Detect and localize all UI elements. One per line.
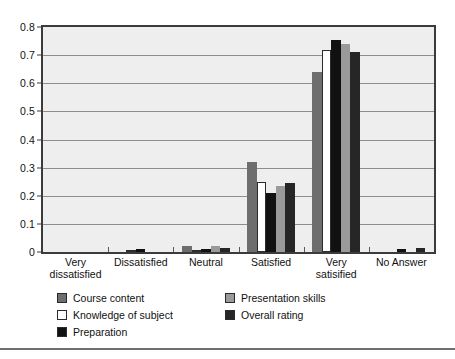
- y-tick-label: 0.8: [20, 21, 35, 33]
- legend-item: Knowledge of subject: [57, 309, 173, 321]
- legend-label: Presentation skills: [241, 292, 326, 304]
- bar-group: [304, 27, 369, 252]
- y-tick-label: 0.6: [20, 77, 35, 89]
- y-axis: 00.10.20.30.40.50.60.70.8: [0, 25, 41, 254]
- bar-group: [173, 27, 238, 252]
- x-tick-label: No Answer: [369, 256, 434, 268]
- x-tick-label-line: No Answer: [369, 256, 434, 268]
- bar-group: [43, 27, 108, 252]
- x-tick-label-line: Dissatisfied: [108, 256, 173, 268]
- legend-swatch: [225, 310, 235, 320]
- x-tick-label-line: satisified: [304, 268, 369, 280]
- legend-item: Presentation skills: [225, 292, 326, 304]
- x-tick-mark: [173, 247, 174, 252]
- y-tick-label: 0: [29, 246, 35, 258]
- y-tick-label: 0.7: [20, 49, 35, 61]
- legend-label: Preparation: [73, 326, 127, 338]
- legend-label: Overall rating: [241, 309, 303, 321]
- legend-label: Course content: [73, 292, 144, 304]
- bar-group: [239, 27, 304, 252]
- x-tick-label: Verydissatisfied: [43, 256, 108, 280]
- x-tick-label-line: Very: [304, 256, 369, 268]
- bar: [331, 40, 341, 252]
- x-tick-mark: [108, 247, 109, 252]
- bar: [397, 249, 407, 252]
- bar: [201, 249, 211, 252]
- y-tick-label: 0.2: [20, 190, 35, 202]
- y-tick-label: 0.3: [20, 162, 35, 174]
- legend-swatch: [225, 293, 235, 303]
- bar: [220, 248, 230, 252]
- x-tick-label-line: Satisfied: [239, 256, 304, 268]
- bottom-divider: [0, 348, 455, 350]
- bar: [416, 248, 426, 252]
- x-tick-label-line: Neutral: [173, 256, 238, 268]
- y-tick-label: 0.5: [20, 105, 35, 117]
- bar: [322, 50, 332, 253]
- bar: [341, 44, 351, 252]
- legend-swatch: [57, 310, 67, 320]
- bar-group: [108, 27, 173, 252]
- chart-legend: Course contentKnowledge of subjectPrepar…: [57, 292, 397, 340]
- bar: [182, 246, 192, 252]
- legend-item: Preparation: [57, 326, 127, 338]
- bar: [266, 193, 276, 252]
- x-tick-label: Satisfied: [239, 256, 304, 268]
- legend-label: Knowledge of subject: [73, 309, 173, 321]
- x-tick-label: Dissatisfied: [108, 256, 173, 268]
- bar: [285, 183, 295, 252]
- legend-swatch: [57, 293, 67, 303]
- x-tick-label-line: Very: [43, 256, 108, 268]
- plot-area: [41, 25, 436, 254]
- x-tick-label: Neutral: [173, 256, 238, 268]
- x-tick-mark: [304, 247, 305, 252]
- bar: [211, 246, 221, 252]
- x-tick-mark: [239, 247, 240, 252]
- x-axis: VerydissatisfiedDissatisfiedNeutralSatis…: [41, 256, 436, 288]
- bar: [276, 186, 286, 252]
- bar: [257, 182, 267, 252]
- bar: [126, 250, 136, 252]
- x-tick-label-line: dissatisfied: [43, 268, 108, 280]
- y-tick-label: 0.4: [20, 134, 35, 146]
- bar: [312, 72, 322, 252]
- bar-group: [369, 27, 434, 252]
- bars-layer: [43, 27, 434, 252]
- legend-swatch: [57, 327, 67, 337]
- bar: [350, 52, 360, 252]
- bar-chart-figure: 00.10.20.30.40.50.60.70.8 Verydissatisfi…: [0, 0, 455, 359]
- legend-item: Course content: [57, 292, 144, 304]
- x-tick-mark: [369, 247, 370, 252]
- y-tick-label: 0.1: [20, 218, 35, 230]
- bar: [247, 162, 257, 252]
- bar: [136, 249, 146, 252]
- x-tick-label: Verysatisified: [304, 256, 369, 280]
- bar: [192, 250, 202, 252]
- legend-item: Overall rating: [225, 309, 303, 321]
